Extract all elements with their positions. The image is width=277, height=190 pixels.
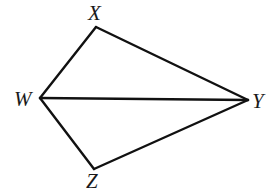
label-x: X bbox=[87, 1, 102, 25]
segment-wx bbox=[40, 27, 96, 98]
segment-wy-diagonal bbox=[40, 98, 248, 100]
label-y: Y bbox=[252, 89, 266, 113]
label-z: Z bbox=[86, 169, 98, 190]
segment-zw bbox=[40, 98, 94, 169]
kite-diagram: X W Y Z bbox=[0, 0, 277, 190]
label-w: W bbox=[14, 87, 34, 111]
segment-yz bbox=[94, 100, 248, 169]
segment-xy bbox=[96, 27, 248, 100]
